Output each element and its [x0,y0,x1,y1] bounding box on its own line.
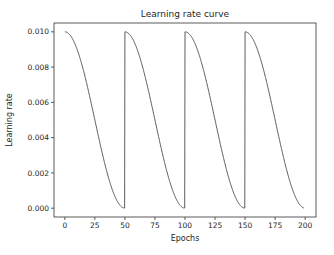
series-line-learning-rate [65,32,304,208]
y-tick-label: 0.006 [28,98,50,107]
y-tick-label: 0.010 [28,27,50,36]
y-tick-label: 0.008 [28,63,50,72]
x-tick-label: 25 [90,221,100,230]
x-tick-label: 175 [268,221,283,230]
x-tick-label: 50 [120,221,130,230]
y-tick-label: 0.002 [28,169,50,178]
x-tick-label: 0 [62,221,67,230]
y-tick-label: 0.004 [28,133,50,142]
x-tick-label: 150 [238,221,253,230]
plot-area [65,32,304,208]
x-tick-label: 125 [208,221,223,230]
y-axis-label: Learning rate [5,93,14,147]
chart-title: Learning rate curve [141,9,230,19]
x-tick-label: 100 [178,221,193,230]
y-axis-ticks: 0.0000.0020.0040.0060.0080.010 [28,27,54,212]
y-tick-label: 0.000 [28,204,50,213]
x-axis-ticks: 0255075100125150175200 [62,217,312,230]
x-axis-label: Epochs [171,234,200,243]
x-tick-label: 75 [150,221,160,230]
learning-rate-chart: Learning rate curve 02550751001251501752… [0,0,334,255]
x-tick-label: 200 [298,221,313,230]
